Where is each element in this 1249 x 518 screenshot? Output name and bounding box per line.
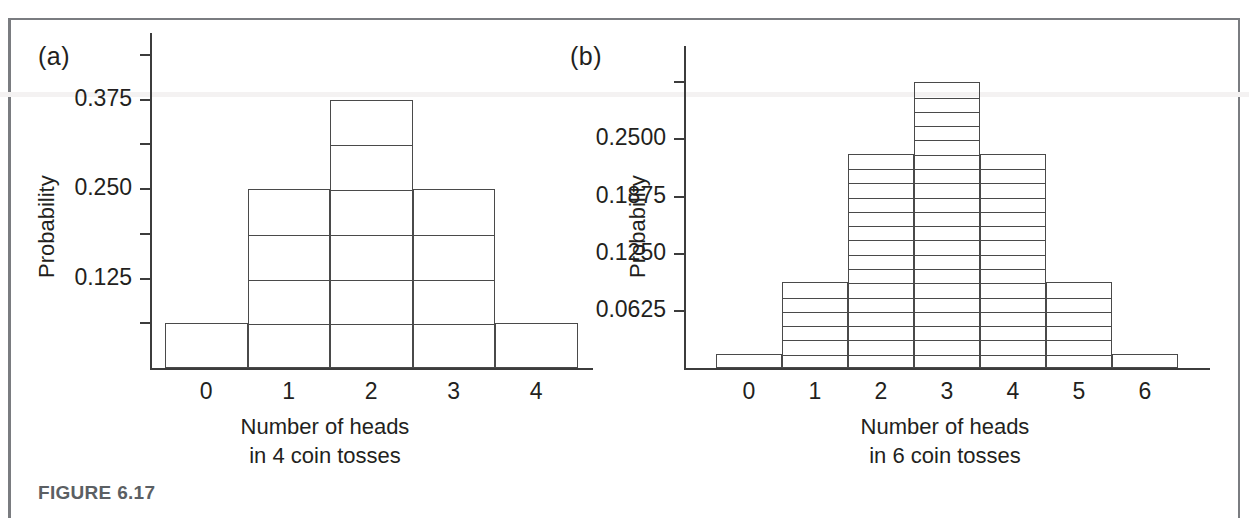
histogram-bar [495,323,578,368]
histogram-bar-segment-rule [849,255,913,256]
histogram-bar-segment-rule [981,298,1045,299]
histogram-bar-segment-rule [915,355,979,356]
histogram-bar-segment-rule [849,212,913,213]
histogram-bar-segment-rule [915,312,979,313]
histogram-bar-segment-rule [981,226,1045,227]
histogram-bar-segment-rule [849,312,913,313]
y-axis-tick-label: 0.1250 [524,239,666,266]
histogram-bar-segment-rule [981,255,1045,256]
panel-a-x-axis-label-line1: Number of heads [185,412,465,441]
histogram-bar-segment-rule [849,183,913,184]
x-axis-tick-label: 1 [248,378,331,405]
x-axis-tick-label: 2 [330,378,413,405]
histogram-bar-segment-rule [915,340,979,341]
panel-a-x-axis-label-line2: in 4 coin tosses [185,441,465,470]
y-axis-tick [674,253,685,255]
histogram-bar-segment-rule [915,226,979,227]
histogram-bar-segment-rule [915,269,979,270]
histogram-bar-segment-rule [849,269,913,270]
panel-b-label: (b) [570,42,602,71]
histogram-bar [716,354,782,368]
x-axis-tick-label: 0 [165,378,248,405]
histogram-bar-segment-rule [331,190,412,191]
x-axis-tick-label: 3 [914,378,980,405]
y-axis-line [684,46,686,368]
histogram-bar-segment-rule [783,355,847,356]
y-axis-tick [140,143,151,145]
y-axis-tick [140,54,151,56]
histogram-bar [782,282,848,368]
histogram-bar-segment-rule [1047,326,1111,327]
histogram-bar-segment-rule [981,198,1045,199]
x-axis-tick-label: 4 [495,378,578,405]
histogram-bar-segment-rule [1047,355,1111,356]
panel-a-x-axis-label: Number of heads in 4 coin tosses [185,412,465,470]
histogram-bar [848,154,914,368]
y-axis-tick [674,81,685,83]
histogram-bar-segment-rule [915,298,979,299]
histogram-bar [165,323,248,368]
y-axis-tick [140,322,151,324]
histogram-bar-segment-rule [414,280,495,281]
histogram-bar-segment-rule [981,183,1045,184]
histogram-bar-segment-rule [981,312,1045,313]
histogram-bar-segment-rule [981,269,1045,270]
histogram-bar-segment-rule [783,340,847,341]
x-axis-tick-label: 6 [1112,378,1178,405]
x-axis-tick-label: 0 [716,378,782,405]
histogram-bar-segment-rule [915,98,979,99]
histogram-bar [1046,282,1112,368]
histogram-bar-segment-rule [249,280,330,281]
histogram-bar-segment-rule [849,240,913,241]
histogram-bar-segment-rule [783,298,847,299]
histogram-bar-segment-rule [981,212,1045,213]
histogram-bar-segment-rule [849,283,913,284]
histogram-bar-segment-rule [849,198,913,199]
x-axis-tick-label: 4 [980,378,1046,405]
histogram-bar [248,189,331,368]
histogram-bar [330,100,413,368]
histogram-bar-segment-rule [981,340,1045,341]
panel-b-x-axis-label-line1: Number of heads [805,412,1085,441]
histogram-bar-segment-rule [249,324,330,325]
histogram-bar-segment-rule [849,355,913,356]
figure-caption: FIGURE 6.17 [38,482,155,504]
histogram-bar-segment-rule [414,324,495,325]
histogram-bar-segment-rule [915,155,979,156]
y-axis-tick-label: 0.125 [0,264,132,291]
histogram-bar-segment-rule [915,198,979,199]
y-axis-tick [140,99,151,101]
histogram-bar-segment-rule [915,212,979,213]
histogram-bar [413,189,496,368]
histogram-bar [914,82,980,368]
histogram-bar-segment-rule [331,324,412,325]
panel-b: (b) Probability 0.06250.12500.18750.2500… [600,0,1249,518]
histogram-bar-segment-rule [915,255,979,256]
histogram-bar-segment-rule [249,235,330,236]
panel-b-x-axis-label: Number of heads in 6 coin tosses [805,412,1085,470]
y-axis-tick [674,196,685,198]
y-axis-tick-label: 0.1875 [524,182,666,209]
y-axis-tick-label: 0.2500 [524,124,666,151]
histogram-bar-segment-rule [915,169,979,170]
histogram-bar-segment-rule [331,280,412,281]
histogram-bar-segment-rule [1047,340,1111,341]
histogram-bar-segment-rule [1047,312,1111,313]
histogram-bar-segment-rule [981,169,1045,170]
histogram-bar-segment-rule [915,240,979,241]
histogram-bar-segment-rule [981,283,1045,284]
x-axis-line [684,368,1210,370]
histogram-bar-segment-rule [915,326,979,327]
histogram-bar-segment-rule [915,112,979,113]
y-axis-tick-label: 0.375 [0,85,132,112]
histogram-bar [1112,354,1178,368]
histogram-bar-segment-rule [915,126,979,127]
histogram-bar-segment-rule [915,140,979,141]
y-axis-tick [674,138,685,140]
panel-a-label: (a) [38,42,70,71]
y-axis-tick [140,233,151,235]
histogram-bar [980,154,1046,368]
histogram-bar-segment-rule [1047,298,1111,299]
x-axis-tick-label: 2 [848,378,914,405]
y-axis-tick [140,188,151,190]
